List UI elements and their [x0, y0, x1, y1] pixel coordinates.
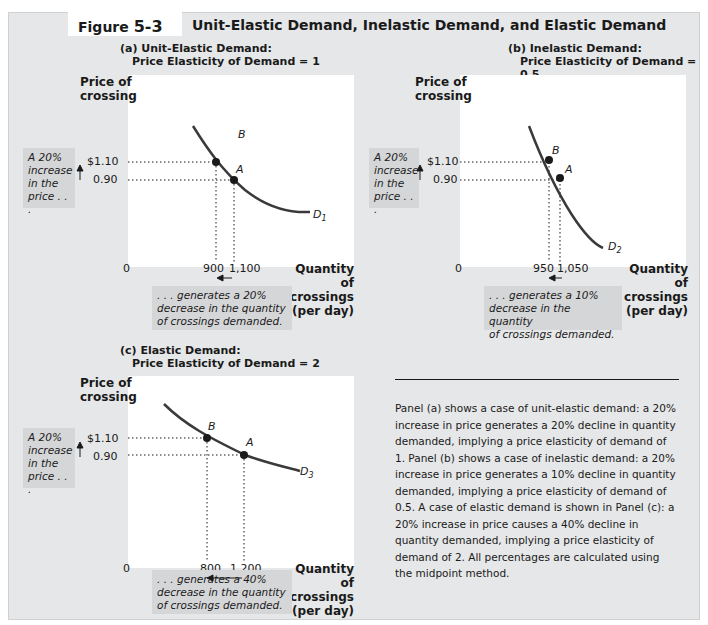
- caption-divider: [395, 379, 679, 380]
- demand-curve-d2: [529, 126, 603, 248]
- point-a-a: [230, 176, 238, 184]
- demand-curve-d1: [193, 126, 310, 212]
- point-b-a: [212, 158, 220, 166]
- figure-caption: Panel (a) shows a case of unit-elastic d…: [395, 400, 679, 582]
- point-a-c: [240, 451, 248, 459]
- point-a-b: [556, 174, 564, 182]
- point-b-c: [203, 434, 211, 442]
- point-b-b: [545, 156, 553, 164]
